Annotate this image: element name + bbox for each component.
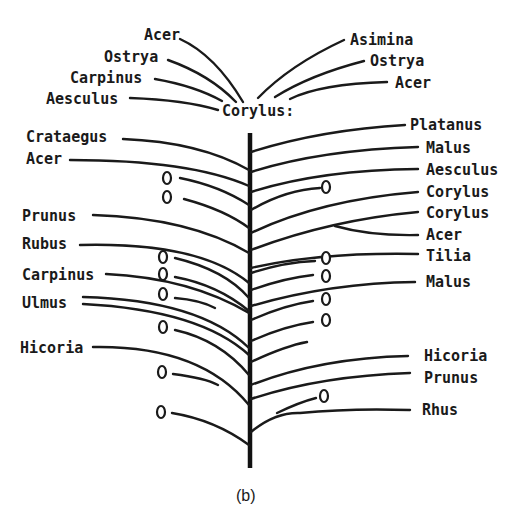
oval-marker-left-7 bbox=[158, 366, 166, 378]
label-left-rubus: Rubus bbox=[22, 235, 67, 253]
branch-right-corylus-2 bbox=[251, 212, 418, 250]
branch-right-oval-1 bbox=[251, 188, 320, 210]
oval-marker-left-8 bbox=[157, 406, 165, 418]
branch-top-asimina bbox=[258, 40, 344, 98]
oval-marker-right-4 bbox=[322, 293, 330, 305]
branch-right-short bbox=[251, 342, 307, 362]
label-top-right-asimina: Asimina bbox=[350, 31, 413, 49]
branch-top-aesculus bbox=[130, 98, 218, 110]
label-right-rhus: Rhus bbox=[422, 401, 458, 419]
oval-marker-left-6 bbox=[159, 321, 167, 333]
label-top-left-carpinus: Carpinus bbox=[70, 69, 142, 87]
label-top-right-acer: Acer bbox=[395, 74, 431, 92]
oval-marker-right-6 bbox=[320, 390, 328, 402]
label-right-corylus-2: Corylus bbox=[426, 204, 489, 222]
branch-left-hicoria bbox=[93, 347, 249, 405]
label-left-acer: Acer bbox=[26, 150, 62, 168]
branching-diagram: Acer Ostrya Carpinus Aesculus Asimina Os… bbox=[0, 0, 515, 523]
oval-marker-left-1 bbox=[163, 172, 171, 184]
branch-left-oval-7 bbox=[173, 374, 218, 385]
label-right-platanus: Platanus bbox=[410, 116, 482, 134]
branch-top-ostrya-left bbox=[168, 60, 236, 102]
label-top-left-acer: Acer bbox=[144, 26, 180, 44]
oval-marker-left-4 bbox=[159, 268, 167, 280]
label-right-malus-2: Malus bbox=[426, 273, 471, 291]
branch-top-ostrya-right bbox=[275, 61, 364, 97]
branch-left-oval-8 bbox=[172, 413, 249, 445]
branch-right-oval-5 bbox=[251, 322, 313, 341]
label-left-ulmus: Ulmus bbox=[22, 294, 67, 312]
branch-top-acer bbox=[180, 39, 243, 102]
figure-caption: (b) bbox=[236, 487, 256, 504]
branch-top-acer-right bbox=[290, 82, 387, 99]
label-top-left-aesculus: Aesculus bbox=[46, 90, 118, 108]
label-left-hicoria: Hicoria bbox=[20, 339, 83, 357]
label-left-prunus: Prunus bbox=[22, 207, 76, 225]
oval-marker-left-3 bbox=[159, 251, 167, 263]
branch-left-oval-2 bbox=[184, 199, 249, 228]
oval-marker-left-5 bbox=[159, 288, 167, 300]
oval-marker-right-3 bbox=[322, 270, 330, 282]
label-top-left-ostrya: Ostrya bbox=[104, 48, 158, 66]
branch-right-acer bbox=[335, 226, 418, 235]
label-left-crataegus: Crataegus bbox=[26, 128, 107, 146]
label-right-tilia: Tilia bbox=[426, 247, 471, 265]
label-top-right-ostrya: Ostrya bbox=[370, 52, 424, 70]
label-right-aesculus: Aesculus bbox=[426, 161, 498, 179]
label-right-prunus: Prunus bbox=[424, 369, 478, 387]
branch-left-oval-6 bbox=[175, 330, 249, 375]
branch-left-prunus bbox=[93, 215, 249, 253]
branch-right-aesculus bbox=[251, 169, 418, 192]
branch-left-crataegus bbox=[123, 139, 249, 170]
oval-marker-right-5 bbox=[322, 314, 330, 326]
branch-right-malus-2 bbox=[251, 282, 415, 306]
label-left-carpinus: Carpinus bbox=[22, 266, 94, 284]
label-right-corylus-1: Corylus bbox=[426, 183, 489, 201]
branch-left-oval-5 bbox=[175, 298, 215, 308]
branch-right-malus bbox=[251, 147, 418, 172]
label-right-malus: Malus bbox=[426, 139, 471, 157]
root-label-corylus: Corylus: bbox=[222, 102, 294, 120]
branch-left-acer bbox=[70, 160, 249, 186]
label-right-acer: Acer bbox=[426, 226, 462, 244]
branch-right-rhus bbox=[251, 409, 410, 432]
label-right-hicoria: Hicoria bbox=[424, 347, 487, 365]
oval-marker-right-1 bbox=[322, 181, 330, 193]
branch-left-oval-3 bbox=[175, 258, 249, 298]
branch-right-oval-3 bbox=[251, 275, 313, 290]
branch-right-oval-6 bbox=[277, 398, 316, 413]
oval-marker-left-2 bbox=[163, 191, 171, 203]
oval-marker-right-2 bbox=[322, 252, 330, 264]
